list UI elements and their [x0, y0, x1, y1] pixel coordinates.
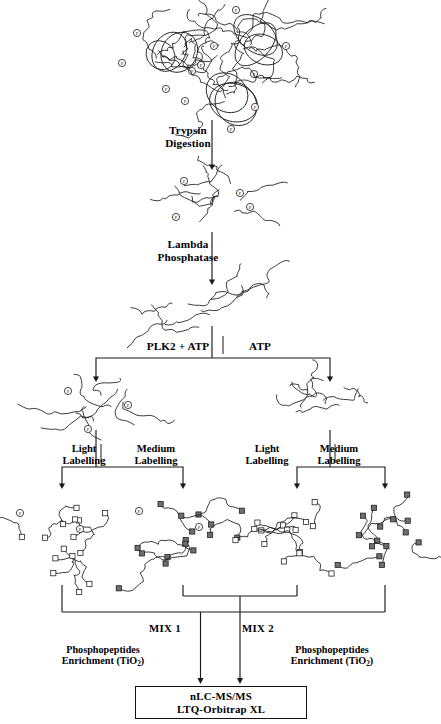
digested-phosphopeptides: PPPP [151, 156, 288, 225]
phosphate-marker-icon: P [210, 42, 217, 49]
instrument-line-1: nLC-MS/MS [190, 690, 252, 703]
isotope-label-marker-icon [158, 502, 163, 507]
arrow-down-icon-atp-medium [382, 483, 388, 489]
isotope-label-marker-icon [60, 522, 65, 527]
isotope-label-marker-icon [293, 527, 298, 532]
isotope-label-marker-icon [297, 551, 302, 556]
isotope-label-marker-icon [51, 571, 56, 576]
phosphate-marker-icon: P [195, 523, 202, 530]
phosphate-marker-icon: P [251, 103, 258, 110]
svg-text:P: P [19, 511, 22, 516]
isotope-label-marker-icon [190, 529, 195, 534]
phosphate-marker-icon: P [162, 85, 169, 92]
svg-text:P: P [138, 509, 141, 514]
instrument-line-2: LTQ-Orbitrap XL [177, 703, 265, 716]
svg-text:P: P [213, 44, 216, 49]
svg-text:P: P [239, 191, 242, 196]
isotope-label-marker-icon [87, 581, 92, 586]
isotope-label-marker-icon [116, 586, 121, 591]
svg-text:P: P [285, 44, 288, 49]
phosphate-marker-icon: P [172, 213, 179, 220]
isotope-label-marker-icon [378, 524, 383, 529]
phosphate-marker-icon: P [232, 6, 239, 13]
atp-light-labelled [233, 500, 334, 577]
isotope-label-marker-icon [71, 534, 76, 539]
isotope-label-marker-icon [139, 551, 144, 556]
phosphate-marker-icon: P [188, 67, 195, 74]
isotope-label-marker-icon [379, 562, 384, 567]
isotope-label-marker-icon [416, 540, 421, 545]
phosphate-marker-icon: P [282, 42, 289, 49]
mix-label-1: MIX 1 [135, 622, 195, 634]
svg-text:P: P [198, 525, 201, 530]
isotope-label-marker-icon [391, 517, 396, 522]
isotope-label-marker-icon [42, 535, 47, 540]
phosphate-marker-icon: P [16, 509, 23, 516]
step-label-medium-labelling-right: Medium Labelling [304, 443, 374, 467]
phosphate-marker-icon: P [133, 29, 140, 36]
isotope-label-marker-icon [209, 522, 214, 527]
isotope-label-marker-icon [403, 530, 408, 535]
isotope-label-marker-icon [335, 562, 340, 567]
phosphate-marker-icon: P [180, 177, 187, 184]
step-label-light-labelling-left: Light Labelling [56, 443, 112, 467]
workflow-diagram: PPPPPPPPPPPPPPPPPPPPPPP Trypsin Digestio… [0, 0, 441, 724]
isotope-label-marker-icon [19, 534, 24, 539]
isotope-label-marker-icon [252, 526, 257, 531]
phosphate-marker-icon: P [76, 525, 83, 532]
isotope-label-marker-icon [310, 524, 315, 529]
step-label-enrichment-right: PhosphopeptidesEnrichment (TiO2) [272, 644, 392, 669]
plk2-light-labelled: PP [0, 505, 109, 594]
isotope-label-marker-icon [262, 541, 267, 546]
isotope-label-marker-icon [74, 505, 79, 510]
isotope-label-marker-icon [405, 518, 410, 523]
phosphate-marker-icon: P [135, 507, 142, 514]
isotope-label-marker-icon [191, 548, 196, 553]
isotope-label-marker-icon [53, 556, 58, 561]
phosphate-marker-icon: P [181, 97, 188, 104]
isotope-label-marker-icon [72, 517, 77, 522]
isotope-label-marker-icon [78, 550, 83, 555]
diagram-artwork: PPPPPPPPPPPPPPPPPPPPPPP [0, 0, 441, 724]
svg-text:P: P [67, 389, 70, 394]
svg-text:P: P [184, 99, 187, 104]
isotope-label-marker-icon [208, 532, 213, 537]
atp-medium-labelled [335, 492, 441, 568]
isotope-label-marker-icon [303, 519, 308, 524]
phosphate-marker-icon: P [84, 425, 91, 432]
svg-text:P: P [175, 215, 178, 220]
arrow-down-icon-atp-light [294, 483, 300, 489]
arrow-down-icon-plk2-medium [180, 483, 186, 489]
svg-text:P: P [136, 31, 139, 36]
phosphate-marker-icon: P [197, 61, 204, 68]
instrument-box: nLC-MS/MS LTQ-Orbitrap XL [135, 686, 307, 719]
svg-text:P: P [79, 527, 82, 532]
phosphate-marker-icon: P [64, 387, 71, 394]
step-label-light-labelling-right: Light Labelling [239, 443, 295, 467]
step-label-phosphatase: Lambda Phosphatase [130, 238, 246, 263]
step-label-atp: ATP [231, 340, 289, 353]
phosphate-marker-icon: P [124, 401, 131, 408]
svg-text:P: P [183, 179, 186, 184]
mix-label-2: MIX 2 [228, 622, 288, 634]
svg-text:P: P [121, 61, 124, 66]
isotope-label-marker-icon [179, 513, 184, 518]
step-label-medium-labelling-left: Medium Labelling [121, 443, 191, 467]
phosphate-marker-icon: P [236, 189, 243, 196]
isotope-label-marker-icon [77, 589, 82, 594]
svg-text:P: P [127, 403, 130, 408]
isotope-label-marker-icon [70, 553, 75, 558]
isotope-label-marker-icon [196, 512, 201, 517]
svg-text:P: P [254, 105, 257, 110]
isotope-label-marker-icon [360, 513, 365, 518]
isotope-label-marker-icon [103, 511, 108, 516]
isotope-label-marker-icon [163, 561, 168, 566]
isotope-label-marker-icon [281, 559, 286, 564]
isotope-label-marker-icon [377, 554, 382, 559]
isotope-label-marker-icon [371, 505, 376, 510]
arrow-down-icon-atp [327, 376, 333, 382]
isotope-label-marker-icon [255, 520, 260, 525]
isotope-label-marker-icon [233, 538, 238, 543]
isotope-label-marker-icon [61, 546, 66, 551]
svg-text:P: P [165, 87, 168, 92]
